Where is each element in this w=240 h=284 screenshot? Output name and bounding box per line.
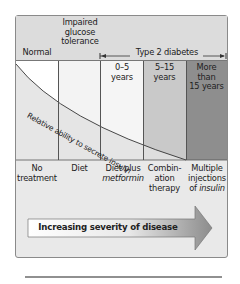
stage-label-15plus: Morethan15 years (186, 63, 227, 92)
treatment-diet-metformin: Diet plusmetformin (101, 163, 145, 183)
diagram-graphics (0, 0, 240, 284)
stage-label-5-15: 5–15years (143, 63, 186, 82)
treatment-diet: Diet (58, 163, 101, 173)
treatment-none: Notreatment (16, 163, 58, 183)
stage-label-0-5: 0–5years (101, 63, 143, 82)
divider (58, 61, 59, 160)
treatment-insulin: Multipleinjections of insulin (185, 163, 229, 193)
treatment-combination: Combin-ationtherapy (143, 163, 186, 193)
arrow-label: Increasing severity of disease (28, 222, 188, 232)
